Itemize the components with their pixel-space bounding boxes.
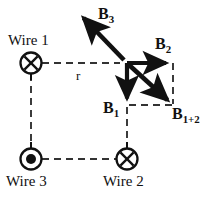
dashed-construction-lines [31, 63, 173, 159]
vector-B1plus2-arrow [128, 64, 168, 100]
wire3-label: Wire 3 [6, 174, 47, 189]
vector-B1-label: B1 [103, 100, 119, 119]
wire1-label: Wire 1 [8, 33, 49, 48]
vector-B1plus2-label: B1+2 [172, 106, 200, 125]
vector-B2-subscript: 2 [166, 43, 171, 55]
vector-B2-label: B2 [155, 36, 171, 55]
distance-r-label: r [76, 69, 80, 82]
wire1-symbol-into-page [21, 53, 42, 74]
vector-B3-base: B [98, 5, 109, 22]
vector-B1plus2-base: B [172, 105, 183, 122]
vector-B2-base: B [155, 35, 166, 52]
vector-B3-subscript: 3 [109, 13, 114, 25]
vector-B3-label: B3 [98, 6, 114, 25]
wire2-symbol-into-page [117, 149, 138, 170]
vector-B1-base: B [103, 99, 114, 116]
vector-B1plus2-subscript: 1+2 [183, 113, 200, 125]
wire2-label: Wire 2 [103, 174, 144, 189]
vector-diagram-figure: Wire 1 Wire 2 Wire 3 r B3 B2 B1 B1+2 [0, 0, 221, 200]
vector-B1-subscript: 1 [114, 107, 119, 119]
wire3-symbol-out-of-page [21, 149, 42, 170]
